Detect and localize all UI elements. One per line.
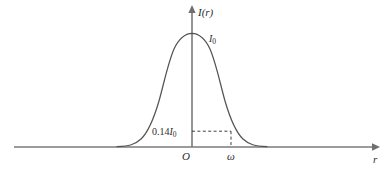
horizontal-axis-arrowhead (372, 143, 380, 151)
origin-label: O (182, 150, 190, 162)
horizontal-axis-label: r (373, 153, 378, 165)
threshold-label-number: 0.14 (152, 126, 170, 137)
gaussian-intensity-figure: I(r) r I0 0.14I0 O ω (0, 0, 389, 170)
threshold-label-subscript: 0 (173, 130, 177, 139)
figure-canvas: I(r) r I0 0.14I0 O ω (0, 0, 389, 170)
vertical-axis-arrowhead (188, 5, 195, 13)
peak-label-subscript: 0 (212, 37, 216, 46)
peak-intensity-label: I0 (208, 33, 216, 46)
threshold-intensity-label: 0.14I0 (152, 126, 177, 139)
vertical-axis-label: I(r) (197, 6, 214, 19)
omega-label: ω (227, 150, 235, 162)
